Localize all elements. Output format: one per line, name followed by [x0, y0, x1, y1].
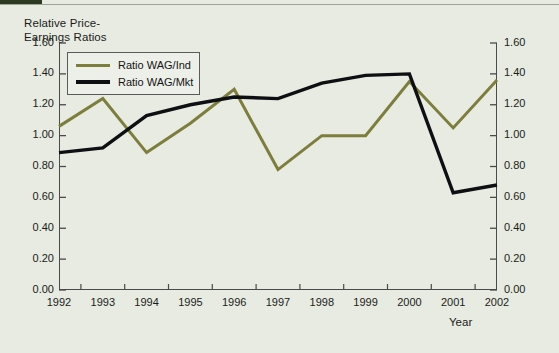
x-axis-label-1999: 1999: [344, 296, 388, 308]
legend-item-wag-mkt: Ratio WAG/Mkt: [76, 74, 193, 90]
y-axis-label-left: 1.60: [20, 36, 54, 48]
y-axis-label-right: 0.40: [504, 221, 538, 233]
x-axis-label-1994: 1994: [125, 296, 169, 308]
y-axis-label-right: 0.80: [504, 159, 538, 171]
y-axis-label-left: 1.00: [20, 128, 54, 140]
y-axis-label-left: 1.40: [20, 66, 54, 78]
legend-label-wag-mkt: Ratio WAG/Mkt: [118, 76, 193, 88]
x-axis-label-1993: 1993: [81, 296, 125, 308]
y-axis-label-right: 1.40: [504, 66, 538, 78]
x-axis-label-2000: 2000: [387, 296, 431, 308]
x-axis-label-2001: 2001: [431, 296, 475, 308]
chart-x-axis-title: Year: [449, 316, 472, 328]
y-axis-label-right: 0.20: [504, 252, 538, 264]
x-axis-label-1997: 1997: [256, 296, 300, 308]
x-axis-label-1996: 1996: [212, 296, 256, 308]
y-axis-label-right: 1.20: [504, 97, 538, 109]
legend-label-wag-ind: Ratio WAG/Ind: [118, 59, 191, 71]
y-axis-label-right: 0.60: [504, 190, 538, 202]
x-axis-label-1998: 1998: [300, 296, 344, 308]
chart-page: Relative Price- Earnings Ratios Ratio WA…: [0, 0, 559, 353]
chart-legend: Ratio WAG/Ind Ratio WAG/Mkt: [67, 52, 200, 95]
y-axis-label-left: 0.20: [20, 252, 54, 264]
y-axis-label-right: 1.60: [504, 36, 538, 48]
x-axis-label-1995: 1995: [168, 296, 212, 308]
legend-swatch-wag-mkt-icon: [76, 80, 110, 83]
y-axis-label-right: 0.00: [504, 283, 538, 295]
y-axis-label-left: 0.40: [20, 221, 54, 233]
y-axis-label-left: 1.20: [20, 97, 54, 109]
y-axis-label-left: 0.00: [20, 283, 54, 295]
legend-item-wag-ind: Ratio WAG/Ind: [76, 57, 191, 73]
x-axis-label-2002: 2002: [475, 296, 519, 308]
legend-swatch-wag-ind-icon: [76, 64, 110, 67]
y-axis-label-right: 1.00: [504, 128, 538, 140]
x-axis-label-1992: 1992: [37, 296, 81, 308]
y-axis-label-left: 0.80: [20, 159, 54, 171]
y-axis-label-left: 0.60: [20, 190, 54, 202]
